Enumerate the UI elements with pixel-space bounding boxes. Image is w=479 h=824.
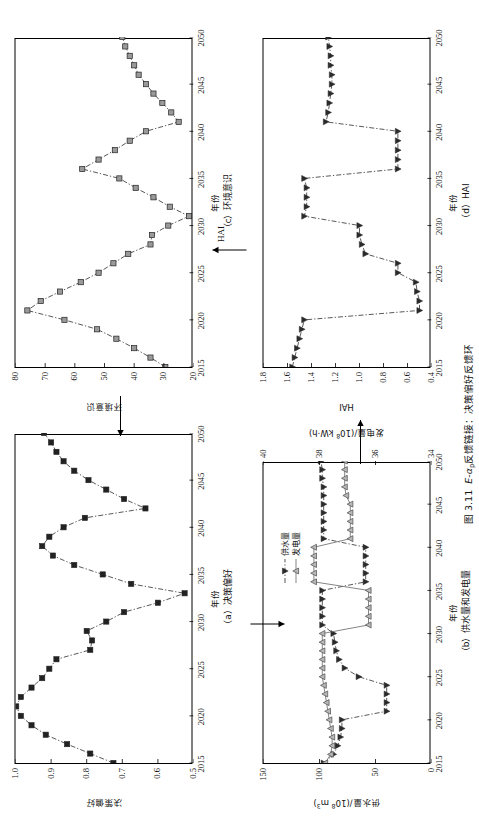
panel-a: 201520202025203020352040204520500.50.60.… [8, 414, 236, 806]
arrow-c-to-a [113, 389, 127, 443]
ytick-label-left: 0.6 [401, 372, 411, 394]
xtick-label: 2045 [195, 77, 205, 94]
y-axis-title-b: 供水量/(108 m3) [313, 798, 379, 810]
series-c [24, 37, 191, 367]
series-canvas-a [15, 433, 193, 763]
rotated-page-wrapper: 201520202025203020352040204520500.50.60.… [0, 0, 479, 824]
legend-label-0: 供水量 [279, 532, 290, 556]
xtick-label: 2020 [195, 312, 205, 329]
y-axis-title-d: HAI [339, 402, 354, 412]
ytick-label-left: 1.2 [329, 372, 339, 394]
xtick-label: 2040 [195, 124, 205, 141]
xtick-label: 2045 [433, 497, 443, 514]
panel-b: 2015202020252030203520402045205005010015… [244, 414, 472, 806]
xtick-label: 2030 [433, 626, 443, 643]
plot-area-c [14, 38, 192, 368]
plot-area-d [262, 38, 430, 368]
xtick-label: 2025 [195, 661, 205, 678]
ytick-label-left: 70 [39, 372, 49, 394]
ytick-label-left: 1.4 [305, 372, 315, 394]
xtick-label: 2020 [433, 712, 443, 729]
legend-label-1: 发电量 [290, 532, 301, 556]
xtick-label: 2040 [433, 540, 443, 557]
x-axis-title-b: 年份 [445, 604, 457, 622]
legend-key-icon-0 [280, 559, 289, 583]
xtick-label: 2025 [433, 265, 443, 282]
xtick-label: 2045 [195, 473, 205, 490]
ytick-label-left: 1.6 [281, 372, 291, 394]
arrow-a-to-b [243, 617, 291, 631]
legend-item-0: 供水量 [279, 532, 290, 583]
ytick-label-left: 150 [257, 768, 267, 790]
xtick-label: 2035 [195, 567, 205, 584]
panel-d: 201520202025203020352040204520500.40.60.… [244, 18, 472, 410]
xtick-label: 2035 [433, 583, 443, 600]
series-canvas-b [263, 461, 431, 763]
ytick-label-left: 0.9 [45, 768, 55, 790]
xtick-label: 2025 [195, 265, 205, 282]
arrow-label-hai: HAI [215, 226, 225, 242]
plot-area-a [14, 434, 192, 764]
xtick-label: 2035 [433, 171, 443, 188]
ytick-label-left: 0.7 [116, 768, 126, 790]
ytick-label-left: 80 [9, 372, 19, 394]
legend-item-1: 发电量 [290, 532, 301, 583]
legend-key-icon-1 [291, 559, 300, 583]
xtick-label: 2030 [195, 614, 205, 631]
arrow-d-to-c [205, 243, 253, 257]
xtick-label: 2035 [195, 171, 205, 188]
ytick-label-left: 0.8 [80, 768, 90, 790]
y-axis-title-right-b: 发电量/(108 kW·h) [308, 428, 383, 440]
ytick-label-right: 36 [369, 450, 379, 459]
x-axis-title-d: 年份 [445, 194, 457, 212]
x-axis-title-a: 年份 [207, 590, 219, 608]
panel-caption-b: （b）供水量和发电量 [458, 570, 471, 657]
ytick-label-left: 0.5 [187, 768, 197, 790]
figure-caption: 图 3.11 E-αp反馈链接：决策偏好反馈环 [460, 344, 476, 524]
xtick-label: 2020 [195, 708, 205, 725]
series-a [15, 433, 187, 763]
ytick-label-left: 20 [187, 372, 197, 394]
xtick-label: 2050 [195, 30, 205, 47]
ytick-label-left: 1.8 [257, 372, 267, 394]
ytick-label-left: 50 [98, 372, 108, 394]
xtick-label: 2030 [195, 218, 205, 235]
series-canvas-c [15, 37, 193, 367]
figure-3-11: 201520202025203020352040204520500.50.60.… [0, 0, 479, 824]
legend-b: 供水量发电量 [279, 532, 301, 583]
x-axis-title-c: 年份 [207, 194, 219, 212]
ytick-label-left: 1.0 [9, 768, 19, 790]
panel-caption-a: （a）决策偏好 [220, 569, 233, 629]
xtick-label: 2045 [433, 77, 443, 94]
xtick-label: 2050 [195, 426, 205, 443]
ytick-label-left: 30 [157, 372, 167, 394]
ytick-label-left: 0.4 [425, 372, 435, 394]
xtick-label: 2025 [433, 669, 443, 686]
ytick-label-left: 50 [369, 768, 379, 790]
series-d [289, 37, 422, 367]
series-canvas-d [263, 37, 431, 367]
ytick-label-left: 0.6 [151, 768, 161, 790]
panel-c: 2015202020252030203520402045205020304050… [8, 18, 236, 410]
xtick-label: 2040 [433, 124, 443, 141]
xtick-label: 2050 [433, 30, 443, 47]
ytick-label-right: 40 [257, 450, 267, 459]
xtick-label: 2030 [433, 218, 443, 235]
xtick-label: 2040 [195, 520, 205, 537]
ytick-label-left: 100 [313, 768, 323, 790]
panel-caption-c: （c）环境意识 [220, 174, 233, 233]
ytick-label-left: 0 [425, 768, 435, 790]
arrow-b-to-d [353, 413, 367, 471]
y-axis-title-a: 决策偏好 [85, 798, 121, 810]
ytick-label-left: 1.0 [353, 372, 363, 394]
ytick-label-left: 60 [68, 372, 78, 394]
panel-caption-d: （d）HAI [458, 183, 471, 222]
xtick-label: 2020 [433, 312, 443, 329]
plot-area-b [262, 462, 430, 764]
ytick-label-left: 0.8 [377, 372, 387, 394]
ytick-label-left: 40 [128, 372, 138, 394]
ytick-label-right: 38 [313, 450, 323, 459]
ytick-label-right: 34 [425, 450, 435, 459]
